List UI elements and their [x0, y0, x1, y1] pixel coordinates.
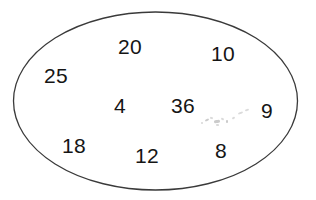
number-12: 12	[135, 145, 159, 166]
number-oval-diagram: 201025436918128	[0, 0, 316, 200]
number-18: 18	[62, 135, 86, 156]
number-8: 8	[215, 140, 227, 161]
number-9: 9	[261, 100, 273, 121]
number-25: 25	[44, 65, 68, 86]
number-4: 4	[114, 95, 126, 116]
number-36: 36	[171, 95, 195, 116]
number-20: 20	[118, 36, 142, 57]
number-10: 10	[211, 43, 235, 64]
